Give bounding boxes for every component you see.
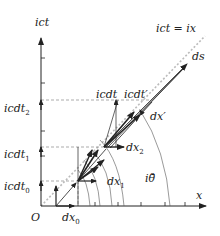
horizontal-axis-label: x: [196, 190, 202, 201]
horizontal-ticks: [95, 202, 185, 206]
base-vectors: [56, 147, 78, 206]
vertical-axis-label: ict: [35, 17, 49, 28]
icdt1-label: icdt1: [4, 149, 30, 163]
icdt0-label: icdt0: [4, 181, 30, 195]
origin-label: O: [31, 212, 40, 223]
icdt-label: icdt: [96, 89, 117, 100]
ds-label: ds: [192, 51, 205, 62]
dx-prime-label: dx′: [150, 111, 166, 122]
icdt-prime-label: icdt′: [124, 89, 148, 100]
angle-label: iθ̄: [145, 173, 155, 184]
icdt2-label: icdt2: [4, 103, 30, 117]
dx2-label: dx2: [126, 142, 144, 156]
dx0-label: dx0: [62, 212, 80, 226]
minkowski-diagram: ict ict = ix ds icdt2 icdt1 icdt0 icdt i…: [0, 0, 220, 236]
second-vectors: [104, 100, 140, 147]
diagonal-label: ict = ix: [156, 23, 196, 34]
dx1-label: dx1: [107, 176, 125, 190]
diagram-canvas: [0, 0, 220, 236]
